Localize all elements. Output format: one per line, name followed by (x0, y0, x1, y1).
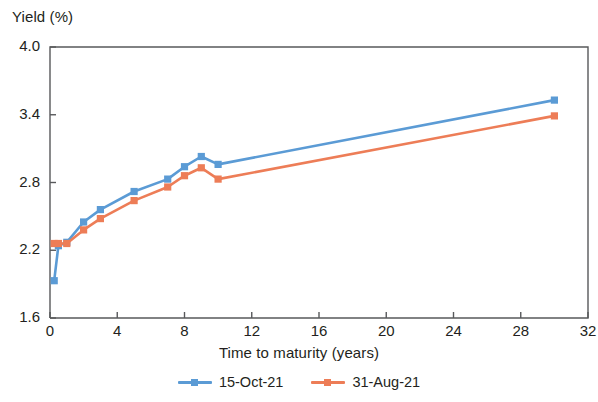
x-axis-tick-label: 0 (30, 322, 70, 339)
x-axis-tick-label: 8 (165, 322, 205, 339)
plot-frame (50, 47, 588, 318)
data-point-marker (55, 240, 62, 247)
data-point-marker (131, 188, 138, 195)
data-point-marker (51, 277, 58, 284)
data-point-marker (80, 218, 87, 225)
yield-curve-chart: Yield (%) 4.03.42.82.21.6 Time to maturi… (0, 0, 598, 402)
legend-swatch-icon (178, 376, 212, 388)
x-axis-title: Time to maturity (years) (0, 344, 598, 361)
data-point-marker (80, 226, 87, 233)
x-axis-tick-label: 28 (501, 322, 541, 339)
series-line-1 (54, 100, 554, 281)
data-point-marker (164, 176, 171, 183)
data-point-marker (97, 206, 104, 213)
chart-legend: 15-Oct-2131-Aug-21 (0, 374, 598, 390)
legend-label: 15-Oct-21 (219, 374, 283, 390)
data-point-marker (551, 97, 558, 104)
legend-item-1[interactable]: 15-Oct-21 (178, 374, 283, 390)
x-axis-tick-label: 4 (97, 322, 137, 339)
data-point-marker (215, 161, 222, 168)
x-axis-tick-label: 20 (366, 322, 406, 339)
data-point-marker (164, 183, 171, 190)
plot-area (0, 0, 598, 402)
data-point-marker (551, 112, 558, 119)
data-point-marker (215, 176, 222, 183)
data-point-marker (97, 215, 104, 222)
series-line-2 (54, 116, 554, 244)
data-point-marker (131, 197, 138, 204)
data-point-marker (181, 172, 188, 179)
x-axis-tick-label: 16 (299, 322, 339, 339)
data-point-marker (63, 240, 70, 247)
data-point-marker (198, 164, 205, 171)
legend-label: 31-Aug-21 (352, 374, 420, 390)
legend-swatch-icon (311, 376, 345, 388)
x-axis-tick-label: 12 (232, 322, 272, 339)
data-point-marker (181, 163, 188, 170)
x-axis-tick-label: 32 (568, 322, 598, 339)
x-axis-tick-label: 24 (434, 322, 474, 339)
data-point-marker (198, 153, 205, 160)
legend-item-2[interactable]: 31-Aug-21 (311, 374, 420, 390)
